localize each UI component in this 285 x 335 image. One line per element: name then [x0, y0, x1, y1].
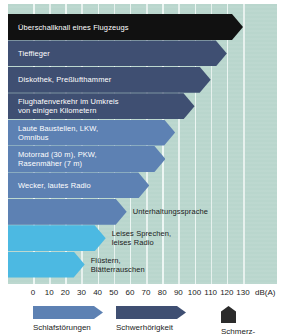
- arrow-right-icon: [116, 306, 186, 319]
- axis-tick-40: 40: [93, 288, 102, 297]
- bar-label: Diskothek, Preßlufthammer: [8, 75, 125, 84]
- axis-tick-10: 10: [45, 288, 54, 297]
- bar-label: Tieffieger: [8, 49, 64, 58]
- bar-row: Laute Baustellen, LKW, Omnibus: [8, 120, 277, 146]
- axis-tick-70: 70: [142, 288, 151, 297]
- bar-label: Laute Baustellen, LKW, Omnibus: [8, 124, 112, 142]
- legend-label: Schwerhörigkeit: [116, 323, 186, 332]
- bar[interactable]: [8, 225, 106, 251]
- bar-label-wrap: Unterhaltungssprache: [127, 199, 222, 225]
- arrow-up-icon: [221, 306, 236, 323]
- axis-tick-80: 80: [158, 288, 167, 297]
- bar[interactable]: Motorrad (30 m), PKW, Rasenmäher (7 m): [8, 146, 165, 172]
- legend-item[interactable]: Schlafstörungen: [33, 306, 103, 332]
- bar-row: Motorrad (30 m), PKW, Rasenmäher (7 m): [8, 146, 277, 172]
- chart-legend: SchlafstörungenSchwerhörigkeitSchmerz-: [8, 306, 285, 335]
- axis-tick-60: 60: [125, 288, 134, 297]
- axis-tick-50: 50: [109, 288, 118, 297]
- bar-label: Leises Sprechen, leises Radio: [106, 229, 186, 247]
- bar[interactable]: Flughafenverkehr im Umkreis von einigen …: [8, 93, 195, 119]
- axis-unit-label: dB(A): [255, 288, 275, 297]
- bar-row: Tieffieger: [8, 40, 277, 66]
- legend-item[interactable]: Schmerz-: [221, 306, 255, 335]
- bar-label: Wecker, lautes Radio: [8, 181, 105, 190]
- bar[interactable]: Diskothek, Preßlufthammer: [8, 67, 211, 93]
- bar-label: Überschallknall eines Flugzeugs: [8, 23, 143, 32]
- legend-item[interactable]: Schwerhörigkeit: [116, 306, 186, 332]
- axis-tick-100: 100: [188, 288, 201, 297]
- bar[interactable]: Überschallknall eines Flugzeugs: [8, 14, 243, 40]
- x-axis: 0102030405060708090100110120130 dB(A): [8, 288, 277, 302]
- bar-row: Flüstern, Blätterrauschen: [8, 252, 277, 278]
- axis-tick-20: 20: [61, 288, 70, 297]
- axis-tick-110: 110: [204, 288, 217, 297]
- axis-tick-120: 120: [220, 288, 233, 297]
- axis-tick-30: 30: [77, 288, 86, 297]
- noise-level-chart: Überschallknall eines FlugzeugsTieffiege…: [0, 0, 285, 335]
- bar-series: Überschallknall eines FlugzeugsTieffiege…: [8, 4, 277, 284]
- bar-label: Flüstern, Blätterrauschen: [85, 256, 159, 274]
- axis-tick-90: 90: [174, 288, 183, 297]
- bar[interactable]: Wecker, lautes Radio: [8, 172, 149, 198]
- bar-label: Unterhaltungssprache: [127, 207, 222, 216]
- bar-row: Überschallknall eines Flugzeugs: [8, 14, 277, 40]
- bar[interactable]: [8, 199, 127, 225]
- bar-label-wrap: Leises Sprechen, leises Radio: [106, 225, 186, 251]
- bar[interactable]: [8, 252, 85, 278]
- bar[interactable]: Tieffieger: [8, 40, 227, 66]
- legend-label: Schmerz-: [221, 327, 255, 335]
- bar[interactable]: Laute Baustellen, LKW, Omnibus: [8, 120, 175, 146]
- bar-row: Flughafenverkehr im Umkreis von einigen …: [8, 93, 277, 119]
- bar-row: Diskothek, Preßlufthammer: [8, 67, 277, 93]
- bar-label-wrap: Flüstern, Blätterrauschen: [85, 252, 159, 278]
- arrow-right-icon: [33, 306, 103, 319]
- axis-tick-0: 0: [31, 288, 35, 297]
- bar-row: Wecker, lautes Radio: [8, 172, 277, 198]
- bar-row: Leises Sprechen, leises Radio: [8, 225, 277, 251]
- axis-tick-130: 130: [236, 288, 249, 297]
- bar-label: Motorrad (30 m), PKW, Rasenmäher (7 m): [8, 150, 111, 168]
- legend-label: Schlafstörungen: [33, 323, 103, 332]
- chart-plot-area: Überschallknall eines FlugzeugsTieffiege…: [8, 4, 277, 284]
- bar-label: Flughafenverkehr im Umkreis von einigen …: [8, 97, 133, 115]
- bar-row: Unterhaltungssprache: [8, 199, 277, 225]
